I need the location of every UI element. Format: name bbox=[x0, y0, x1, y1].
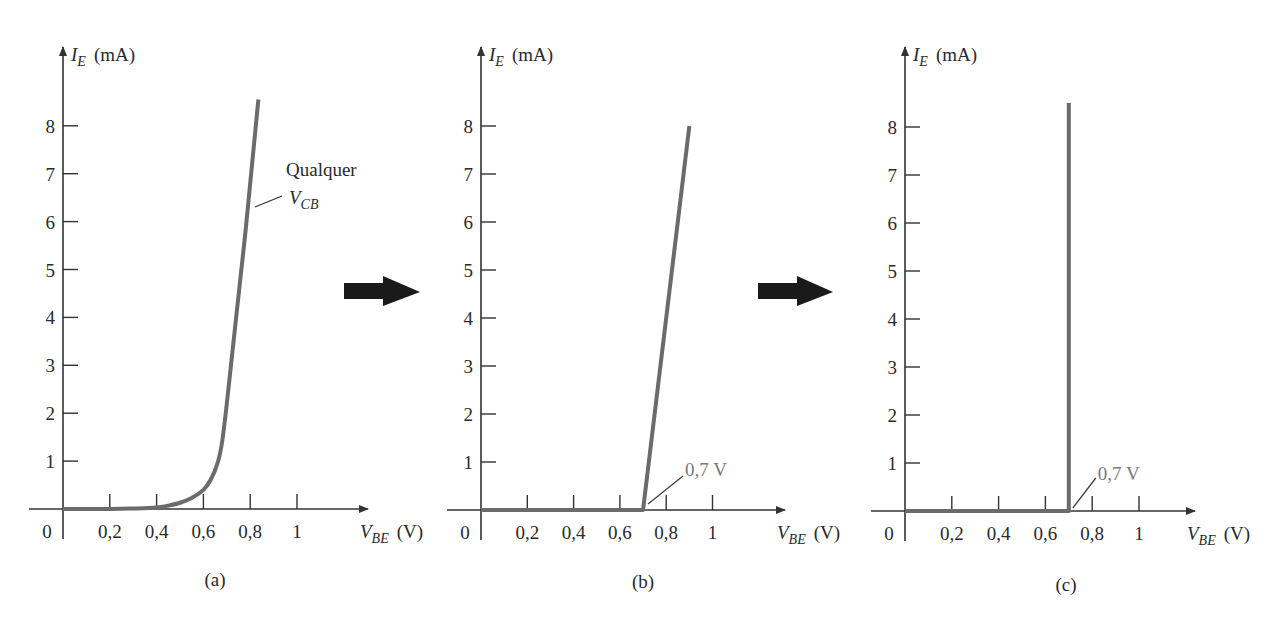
y-axis-label: IE(mA) bbox=[912, 44, 977, 69]
x-tick-label: 0,4 bbox=[987, 523, 1011, 544]
y-axis-label: IE(mA) bbox=[70, 44, 135, 69]
x-tick-label: 0,8 bbox=[1080, 523, 1104, 544]
y-tick-label: 2 bbox=[888, 405, 898, 426]
y-tick-label: 1 bbox=[464, 452, 474, 473]
x-tick-label: 0 bbox=[884, 523, 894, 544]
y-tick-label: 1 bbox=[888, 453, 898, 474]
y-tick-label: 8 bbox=[464, 116, 474, 137]
y-tick-label: 7 bbox=[888, 165, 898, 186]
panel-caption: (c) bbox=[1055, 574, 1076, 596]
x-tick-label: 1 bbox=[708, 522, 718, 543]
y-tick-label: 8 bbox=[888, 117, 898, 138]
x-tick-label: 0,2 bbox=[98, 521, 122, 542]
y-tick-label: 6 bbox=[888, 213, 898, 234]
x-tick-label: 0,6 bbox=[1034, 523, 1058, 544]
panel-caption: (b) bbox=[632, 571, 654, 593]
y-tick-label: 1 bbox=[46, 451, 56, 472]
y-axis-label: IE(mA) bbox=[488, 44, 553, 69]
figure: IE(mA)VBE(V)1234567800,20,40,60,81Qualqu… bbox=[0, 0, 1286, 626]
x-tick-label: 0,8 bbox=[654, 522, 678, 543]
x-axis-label: VBE(V) bbox=[360, 521, 423, 546]
x-tick-label: 0 bbox=[42, 521, 52, 542]
annotation-qualquer: Qualquer bbox=[286, 159, 357, 180]
y-tick-label: 3 bbox=[46, 355, 56, 376]
y-tick-label: 2 bbox=[46, 403, 56, 424]
data-series-line bbox=[905, 103, 1069, 511]
y-tick-label: 7 bbox=[464, 164, 474, 185]
right-arrow-icon bbox=[344, 276, 420, 306]
right-arrow-icon bbox=[758, 276, 833, 306]
x-tick-label: 0,8 bbox=[238, 521, 262, 542]
x-tick-label: 0,6 bbox=[192, 521, 216, 542]
y-tick-label: 2 bbox=[464, 404, 474, 425]
x-axis-label: VBE(V) bbox=[777, 522, 840, 547]
data-series-line bbox=[63, 99, 258, 509]
x-tick-label: 0,2 bbox=[515, 522, 539, 543]
x-tick-label: 0,4 bbox=[145, 521, 169, 542]
x-tick-label: 1 bbox=[292, 521, 302, 542]
annotation-leader-line bbox=[255, 196, 282, 207]
y-tick-label: 8 bbox=[46, 116, 56, 137]
y-tick-label: 5 bbox=[888, 261, 898, 282]
x-axis-label: VBE(V) bbox=[1187, 523, 1250, 548]
panel-a: IE(mA)VBE(V)1234567800,20,40,60,81Qualqu… bbox=[29, 44, 423, 591]
data-series-line bbox=[481, 126, 689, 510]
x-tick-label: 1 bbox=[1134, 523, 1144, 544]
x-tick-label: 0 bbox=[460, 522, 470, 543]
x-tick-label: 0,4 bbox=[562, 522, 586, 543]
annotation-0-7v: 0,7 V bbox=[1098, 463, 1140, 484]
x-tick-label: 0,2 bbox=[940, 523, 964, 544]
annotation-vcb: VCB bbox=[289, 187, 319, 212]
panel-c: IE(mA)VBE(V)1234567800,20,40,60,810,7 V(… bbox=[871, 44, 1250, 596]
x-tick-label: 0,6 bbox=[608, 522, 632, 543]
y-tick-label: 5 bbox=[46, 260, 56, 281]
y-tick-label: 7 bbox=[46, 164, 56, 185]
panel-caption: (a) bbox=[204, 569, 225, 591]
panel-b: IE(mA)VBE(V)1234567800,20,40,60,810,7 V(… bbox=[447, 44, 840, 593]
y-tick-label: 6 bbox=[46, 212, 56, 233]
y-tick-label: 4 bbox=[46, 307, 56, 328]
y-tick-label: 4 bbox=[464, 308, 474, 329]
annotation-0-7v: 0,7 V bbox=[685, 459, 727, 480]
y-tick-label: 5 bbox=[464, 260, 474, 281]
y-tick-label: 3 bbox=[888, 357, 898, 378]
y-tick-label: 4 bbox=[888, 309, 898, 330]
y-tick-label: 6 bbox=[464, 212, 474, 233]
y-tick-label: 3 bbox=[464, 356, 474, 377]
